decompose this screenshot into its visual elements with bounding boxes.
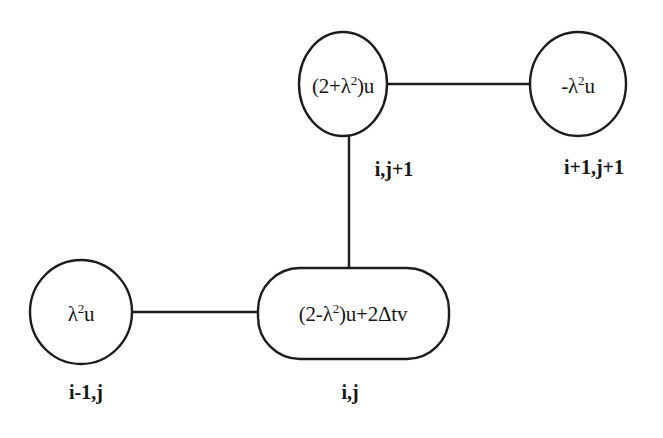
index-label-top-right: i+1,j+1 xyxy=(564,157,624,177)
node-left-label: λ2u xyxy=(68,304,95,325)
diagram-svg xyxy=(0,0,663,438)
node-top-center-label: (2+λ2)u xyxy=(312,76,374,97)
node-center-label: (2-λ2)u+2Δtv xyxy=(299,304,407,325)
index-label-center: i,j xyxy=(341,382,358,402)
diagram-canvas: (2+λ2)u i,j+1 -λ2u i+1,j+1 (2-λ2)u+2Δtv … xyxy=(0,0,663,438)
node-top-right-label: -λ2u xyxy=(561,76,594,97)
index-label-left: i-1,j xyxy=(69,382,103,402)
index-label-top-center: i,j+1 xyxy=(375,159,414,179)
